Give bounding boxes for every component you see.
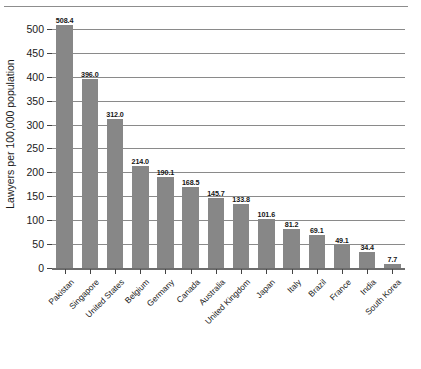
gridline bbox=[52, 101, 405, 102]
x-axis-category-label: France bbox=[328, 277, 354, 303]
x-axis-tick bbox=[90, 269, 91, 274]
gridline bbox=[52, 244, 405, 245]
x-axis-tick bbox=[392, 269, 393, 274]
y-axis-tick bbox=[47, 125, 52, 126]
y-axis-tick bbox=[47, 53, 52, 54]
y-axis-tick bbox=[47, 148, 52, 149]
y-axis-tick-label: 500 bbox=[26, 23, 44, 35]
bar-value-label: 396.0 bbox=[81, 70, 99, 79]
bar-value-label: 7.7 bbox=[388, 255, 398, 264]
bar-value-label: 145.7 bbox=[207, 189, 225, 198]
bar-value-label: 49.1 bbox=[335, 236, 349, 245]
x-axis-category-label: India bbox=[358, 277, 378, 297]
y-axis-tick bbox=[47, 196, 52, 197]
bar bbox=[132, 166, 149, 268]
y-axis-tick-label: 350 bbox=[26, 95, 44, 107]
x-axis-tick bbox=[115, 269, 116, 274]
bar-value-label: 508.4 bbox=[56, 16, 74, 25]
bar bbox=[309, 235, 326, 268]
y-axis-tick-label: 450 bbox=[26, 47, 44, 59]
bar-value-label: 69.1 bbox=[310, 226, 324, 235]
y-axis-tick-label: 200 bbox=[26, 166, 44, 178]
x-axis-category-label: Germany bbox=[145, 277, 176, 308]
bar bbox=[258, 219, 275, 268]
gridline bbox=[52, 77, 405, 78]
bar-value-label: 168.5 bbox=[182, 178, 200, 187]
gridline bbox=[52, 125, 405, 126]
gridline bbox=[52, 53, 405, 54]
x-axis-tick bbox=[266, 269, 267, 274]
gridline bbox=[52, 196, 405, 197]
top-divider-rule bbox=[4, 6, 408, 7]
y-axis-tick bbox=[47, 101, 52, 102]
y-axis-tick bbox=[47, 29, 52, 30]
x-axis-tick bbox=[216, 269, 217, 274]
bar-value-label: 101.6 bbox=[258, 210, 276, 219]
y-axis-tick-label: 150 bbox=[26, 190, 44, 202]
x-axis-line bbox=[52, 268, 405, 270]
x-axis-tick bbox=[140, 269, 141, 274]
x-axis-category-label: Italy bbox=[285, 277, 303, 295]
y-axis-title-wrapper: Lawyers per 100,000 population bbox=[0, 0, 20, 268]
y-axis-title: Lawyers per 100,000 population bbox=[4, 59, 16, 208]
bar bbox=[233, 204, 250, 268]
bar-value-label: 81.2 bbox=[285, 220, 299, 229]
bar-value-label: 312.0 bbox=[106, 110, 124, 119]
x-axis-tick bbox=[367, 269, 368, 274]
plot-area: 050100150200250300350400450500 508.4396.… bbox=[52, 17, 405, 268]
bar-value-label: 133.8 bbox=[232, 195, 250, 204]
bar bbox=[182, 187, 199, 268]
y-axis-tick-label: 100 bbox=[26, 214, 44, 226]
y-axis-tick-label: 400 bbox=[26, 71, 44, 83]
x-axis-tick bbox=[65, 269, 66, 274]
bar-value-label: 190.1 bbox=[157, 168, 175, 177]
y-axis-tick bbox=[47, 77, 52, 78]
bar bbox=[283, 229, 300, 268]
gridline bbox=[52, 29, 405, 30]
y-axis-tick bbox=[47, 244, 52, 245]
x-axis-category-label: Japan bbox=[254, 277, 277, 300]
bar bbox=[334, 245, 351, 268]
x-axis-category-label: United Kingdom bbox=[203, 277, 252, 326]
x-axis-tick bbox=[191, 269, 192, 274]
x-axis-tick bbox=[317, 269, 318, 274]
gridline bbox=[52, 172, 405, 173]
gridline bbox=[52, 220, 405, 221]
x-axis-tick bbox=[342, 269, 343, 274]
y-axis-tick-label: 0 bbox=[38, 262, 44, 274]
bar bbox=[157, 177, 174, 268]
x-axis-tick bbox=[292, 269, 293, 274]
bar bbox=[56, 25, 73, 268]
bar bbox=[208, 198, 225, 268]
y-axis-tick-label: 50 bbox=[32, 238, 44, 250]
x-axis-category-label: Brazil bbox=[306, 277, 328, 299]
y-axis-tick bbox=[47, 172, 52, 173]
x-axis-tick bbox=[165, 269, 166, 274]
y-axis-tick-label: 300 bbox=[26, 119, 44, 131]
bar bbox=[359, 252, 376, 268]
bar-value-label: 34.4 bbox=[360, 243, 374, 252]
x-axis-tick bbox=[241, 269, 242, 274]
gridline bbox=[52, 148, 405, 149]
bar bbox=[107, 119, 124, 268]
chart-figure: Lawyers per 100,000 population 050100150… bbox=[0, 0, 421, 369]
bar bbox=[82, 79, 99, 268]
y-axis-tick bbox=[47, 220, 52, 221]
y-axis-tick-label: 250 bbox=[26, 142, 44, 154]
bar-value-label: 214.0 bbox=[132, 157, 150, 166]
